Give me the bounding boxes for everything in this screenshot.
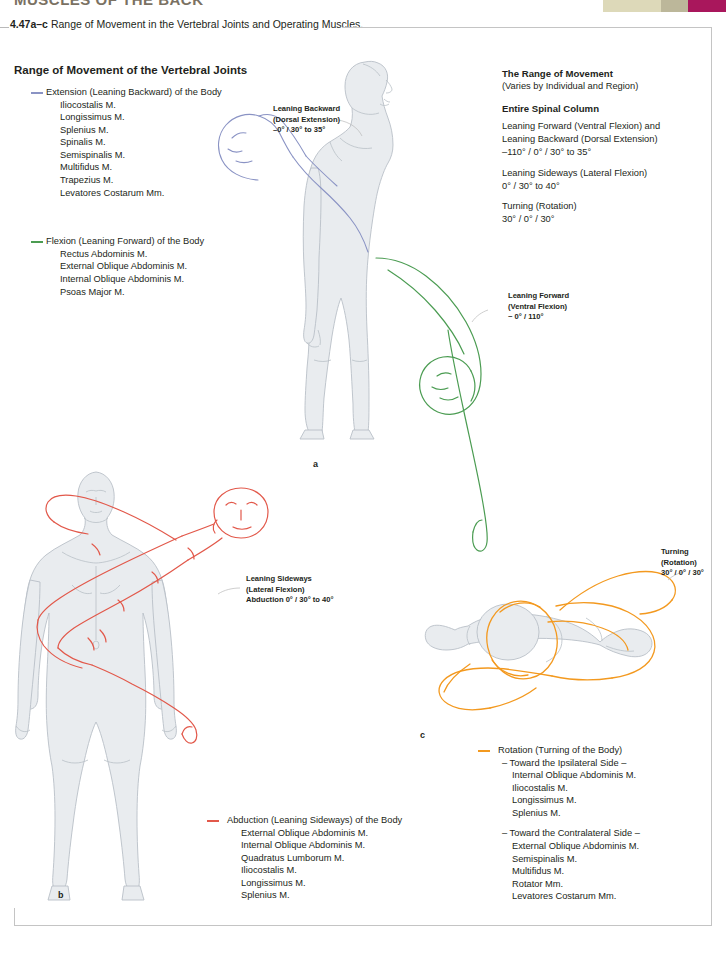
- overlay-rotation-orange: [439, 572, 675, 710]
- list-item: Longissimus M.: [512, 794, 716, 807]
- flexion-color-rule-icon: [31, 241, 43, 243]
- ipsilateral-muscle-list: Internal Oblique Abdominis M. Iliocostal…: [466, 769, 716, 819]
- figure-c-supine-man: [425, 604, 652, 662]
- list-item: Internal Oblique Abdominis M.: [60, 273, 274, 286]
- callout-leaning-backward: Leaning Backward (Dorsal Extension) –0° …: [273, 104, 340, 136]
- list-item: Longissimus M.: [60, 111, 274, 124]
- running-head-text: MUSCLES OF THE BACK: [14, 0, 204, 8]
- info-spacer-small: [502, 193, 717, 200]
- callout-line: (Ventral Flexion): [508, 302, 569, 313]
- leader-leaning-forward: [472, 310, 488, 322]
- figure-b-frontal-man: [16, 472, 177, 900]
- contralateral-heading: – Toward the Contralateral Side –: [466, 827, 716, 840]
- flexion-muscle-list: Rectus Abdominis M. External Oblique Abd…: [14, 248, 274, 298]
- legend-flexion-title: Flexion (Leaning Forward) of the Body: [14, 235, 274, 248]
- callout-line: 30° / 0° / 30°: [661, 568, 704, 579]
- info-line: 30° / 0° / 30°: [502, 213, 717, 226]
- abduction-legend-block: Abduction (Leaning Sideways) of the Body…: [195, 814, 455, 902]
- callout-line: ~ 0° / 110°: [508, 312, 569, 323]
- info-line: Turning (Rotation): [502, 200, 717, 213]
- rotation-color-rule-icon: [478, 750, 490, 752]
- list-item: Internal Oblique Abdominis M.: [241, 839, 455, 852]
- info-line: Leaning Forward (Ventral Flexion) and: [502, 120, 717, 133]
- abduction-color-rule-icon: [207, 820, 219, 822]
- list-item: Rectus Abdominis M.: [60, 248, 274, 261]
- overlay-abduction-red: [37, 488, 268, 743]
- abduction-title: Abduction (Leaning Sideways) of the Body: [195, 814, 455, 827]
- callout-line: Leaning Backward: [273, 104, 340, 115]
- color-swatch-cream: [603, 0, 661, 12]
- rotation-title-text: Rotation (Turning of the Body): [498, 745, 622, 755]
- callout-line: (Dorsal Extension): [273, 115, 340, 126]
- figure-caption-text: Range of Movement in the Vertebral Joint…: [51, 18, 363, 30]
- ipsilateral-heading: – Toward the Ipsilateral Side –: [466, 757, 716, 770]
- info-title: The Range of Movement: [502, 67, 717, 80]
- extension-muscle-list: Iliocostalis M. Longissimus M. Splenius …: [14, 99, 274, 200]
- list-item: External Oblique Abdominis M.: [241, 827, 455, 840]
- overlay-flexion-green: [376, 258, 487, 551]
- list-item: Splenius M.: [60, 124, 274, 137]
- extension-title-text: Extension (Leaning Backward) of the Body: [46, 87, 222, 97]
- list-item: Levatores Costarum Mm.: [512, 890, 716, 903]
- callout-leaning-forward: Leaning Forward (Ventral Flexion) ~ 0° /…: [508, 291, 569, 323]
- callout-line: Leaning Sideways: [246, 574, 334, 585]
- flexion-title-text: Flexion (Leaning Forward) of the Body: [46, 236, 204, 246]
- list-item: Iliocostalis M.: [512, 782, 716, 795]
- info-line: –110° / 0° / 30° to 35°: [502, 146, 717, 159]
- leader-leaning-sideways: [218, 588, 240, 594]
- callout-turning: Turning (Rotation) 30° / 0° / 30°: [661, 547, 704, 579]
- list-item: Quadratus Lumborum M.: [241, 852, 455, 865]
- callout-line: –0° / 30° to 35°: [273, 125, 340, 136]
- running-head-strip: MUSCLES OF THE BACK: [0, 0, 726, 14]
- list-item: Spinalis M.: [60, 136, 274, 149]
- info-line: Leaning Sideways (Lateral Flexion): [502, 167, 717, 180]
- rotation-legend-block: Rotation (Turning of the Body) – Toward …: [466, 744, 716, 903]
- legend-spacer: [14, 203, 274, 235]
- callout-line: (Rotation): [661, 558, 704, 569]
- left-legend-heading: Range of Movement of the Vertebral Joint…: [14, 64, 274, 76]
- color-swatch-magenta: [688, 0, 726, 12]
- list-item: Iliocostalis M.: [60, 99, 274, 112]
- rotation-title: Rotation (Turning of the Body): [466, 744, 716, 757]
- panel-label-b: b: [58, 890, 64, 900]
- callout-line: Turning: [661, 547, 704, 558]
- list-item: Rotator Mm.: [512, 878, 716, 891]
- list-item: Internal Oblique Abdominis M.: [512, 769, 716, 782]
- list-item: Splenius M.: [512, 807, 716, 820]
- range-of-movement-info-block: The Range of Movement (Varies by Individ…: [502, 67, 717, 226]
- page-frame-bottom: [14, 925, 712, 926]
- color-swatch-olive: [661, 0, 688, 12]
- list-item: Splenius M.: [241, 889, 455, 902]
- textbook-page: MUSCLES OF THE BACK 4.47a–c Range of Mov…: [0, 0, 726, 968]
- callout-line: (Lateral Flexion): [246, 585, 334, 596]
- list-item: Multifidus M.: [512, 865, 716, 878]
- legend-group-flexion: Flexion (Leaning Forward) of the Body Re…: [14, 235, 274, 298]
- extension-color-rule-icon: [31, 92, 43, 94]
- figure-caption-row: 4.47a–c Range of Movement in the Vertebr…: [0, 18, 726, 36]
- info-spacer: [502, 93, 717, 102]
- contralateral-muscle-list: External Oblique Abdominis M. Semispinal…: [466, 840, 716, 903]
- legend-extension-title: Extension (Leaning Backward) of the Body: [14, 86, 274, 99]
- callout-leaning-sideways: Leaning Sideways (Lateral Flexion) Abduc…: [246, 574, 334, 606]
- list-item: Levatores Costarum Mm.: [60, 187, 274, 200]
- panel-label-c: c: [420, 730, 425, 740]
- abduction-title-text: Abduction (Leaning Sideways) of the Body: [227, 815, 402, 825]
- info-line: Leaning Backward (Dorsal Extension): [502, 133, 717, 146]
- figure-caption: 4.47a–c Range of Movement in the Vertebr…: [10, 18, 363, 30]
- callout-line: Abduction 0° / 30° to 40°: [246, 595, 334, 606]
- list-item: External Oblique Abdominis M.: [60, 260, 274, 273]
- list-item: Semispinalis M.: [512, 853, 716, 866]
- info-line: 0° / 30° to 40°: [502, 180, 717, 193]
- legend-group-extension: Extension (Leaning Backward) of the Body…: [14, 86, 274, 199]
- list-item: External Oblique Abdominis M.: [512, 840, 716, 853]
- left-legend-block: Range of Movement of the Vertebral Joint…: [14, 64, 274, 302]
- list-item: Multifidus M.: [60, 161, 274, 174]
- info-spacer-small: [502, 160, 717, 167]
- rotation-legend-spacer: [466, 819, 716, 827]
- caption-rule: [342, 27, 712, 28]
- list-item: Trapezius M.: [60, 174, 274, 187]
- page-frame-left: [14, 908, 15, 926]
- abduction-muscle-list: External Oblique Abdominis M. Internal O…: [195, 827, 455, 903]
- list-item: Iliocostalis M.: [241, 864, 455, 877]
- figure-number: 4.47a–c: [10, 18, 48, 30]
